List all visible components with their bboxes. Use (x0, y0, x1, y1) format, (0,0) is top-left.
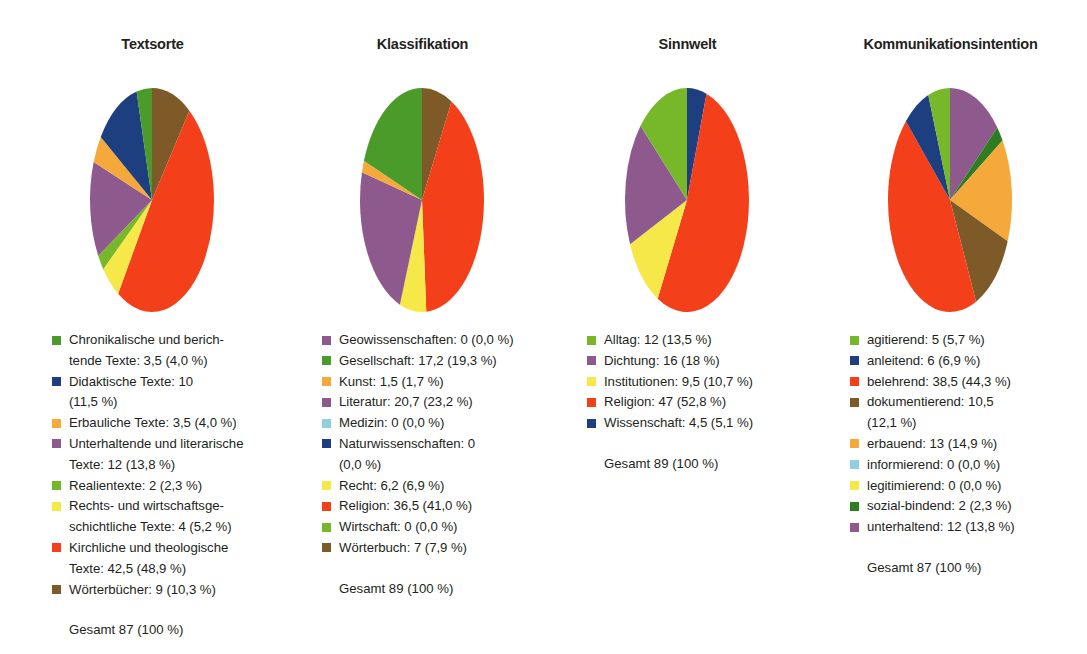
pie-chart-kommunikationsintention (828, 88, 1073, 312)
legend-item[interactable]: Recht: 6,2 (6,9 %) (322, 476, 557, 497)
legend-swatch-icon (587, 356, 596, 365)
legend-swatch-icon (322, 523, 331, 532)
legend-swatch-icon (850, 523, 859, 532)
legend-item-label: Chronikalische und berich-tende Texte: 3… (69, 330, 224, 372)
legend-item[interactable]: informierend: 0 (0,0 %) (850, 455, 1085, 476)
legend-swatch-icon (322, 336, 331, 345)
legend-item[interactable]: sozial-bindend: 2 (2,3 %) (850, 496, 1085, 517)
legend-item-label: Wörterbuch: 7 (7,9 %) (339, 538, 467, 559)
legend-item-label: belehrend: 38,5 (44,3 %) (867, 372, 1011, 393)
legend-swatch-icon (52, 543, 61, 552)
legend-item[interactable]: dokumentierend: 10,5(12,1 %) (850, 392, 1085, 434)
legend-item[interactable]: Rechts- und wirtschaftsge-schichtliche T… (52, 496, 287, 538)
legend-item[interactable]: Wörterbuch: 7 (7,9 %) (322, 538, 557, 559)
pie-chart-klassifikation (300, 88, 545, 312)
legend-swatch-icon (322, 481, 331, 490)
legend-item-label: Wirtschaft: 0 (0,0 %) (339, 517, 457, 538)
legend-swatch-icon (850, 356, 859, 365)
legend-item[interactable]: Erbauliche Texte: 3,5 (4,0 %) (52, 413, 287, 434)
legend-swatch-icon (322, 377, 331, 386)
legend-swatch-icon (322, 398, 331, 407)
legend-item-label: sozial-bindend: 2 (2,3 %) (867, 496, 1012, 517)
legend-item-label: Gesellschaft: 17,2 (19,3 %) (339, 351, 497, 372)
pie-chart-sinnwelt (565, 88, 810, 312)
pie-svg (30, 88, 275, 314)
legend-item[interactable]: Chronikalische und berich-tende Texte: 3… (52, 330, 287, 372)
chart-panel-sinnwelt: Sinnwelt Alltag: 12 (13,5 %)Dichtung: 16… (565, 0, 830, 654)
legend-swatch-icon (587, 377, 596, 386)
legend-swatch-icon (850, 336, 859, 345)
legend-total: Gesamt 87 (100 %) (850, 558, 1085, 579)
legend-item-label: Realientexte: 2 (2,3 %) (69, 476, 202, 497)
legend-item-label: Medizin: 0 (0,0 %) (339, 413, 444, 434)
legend-swatch-icon (52, 377, 61, 386)
legend-item[interactable]: agitierend: 5 (5,7 %) (850, 330, 1085, 351)
legend-item-label: Wörterbücher: 9 (10,3 %) (69, 580, 216, 601)
legend-item-label: Dichtung: 16 (18 %) (604, 351, 720, 372)
legend-sinnwelt: Alltag: 12 (13,5 %)Dichtung: 16 (18 %)In… (587, 330, 822, 475)
legend-items: Chronikalische und berich-tende Texte: 3… (52, 330, 287, 600)
legend-swatch-icon (850, 460, 859, 469)
legend-swatch-icon (587, 336, 596, 345)
legend-item-label: Kirchliche und theologischeTexte: 42,5 (… (69, 538, 228, 580)
legend-item[interactable]: Literatur: 20,7 (23,2 %) (322, 392, 557, 413)
legend-item[interactable]: Religion: 36,5 (41,0 %) (322, 496, 557, 517)
legend-item-label: Didaktische Texte: 10(11,5 %) (69, 372, 193, 414)
legend-item[interactable]: Didaktische Texte: 10(11,5 %) (52, 372, 287, 414)
legend-item[interactable]: Wörterbücher: 9 (10,3 %) (52, 580, 287, 601)
legend-item[interactable]: Wirtschaft: 0 (0,0 %) (322, 517, 557, 538)
legend-item-label: Religion: 47 (52,8 %) (604, 392, 726, 413)
legend-item-label: Recht: 6,2 (6,9 %) (339, 476, 444, 497)
legend-item[interactable]: Kirchliche und theologischeTexte: 42,5 (… (52, 538, 287, 580)
legend-total: Gesamt 87 (100 %) (52, 620, 287, 641)
legend-swatch-icon (850, 439, 859, 448)
legend-swatch-icon (322, 502, 331, 511)
legend-item[interactable]: anleitend: 6 (6,9 %) (850, 351, 1085, 372)
legend-item[interactable]: Geowissenschaften: 0 (0,0 %) (322, 330, 557, 351)
legend-items: Geowissenschaften: 0 (0,0 %)Gesellschaft… (322, 330, 557, 559)
pie-chart-textsorte (30, 88, 275, 312)
legend-item[interactable]: Realientexte: 2 (2,3 %) (52, 476, 287, 497)
legend-item-label: unterhaltend: 12 (13,8 %) (867, 517, 1015, 538)
pie-svg (300, 88, 545, 314)
legend-item[interactable]: legitimierend: 0 (0,0 %) (850, 476, 1085, 497)
legend-item[interactable]: Gesellschaft: 17,2 (19,3 %) (322, 351, 557, 372)
legend-item-label: Alltag: 12 (13,5 %) (604, 330, 712, 351)
legend-item[interactable]: erbauend: 13 (14,9 %) (850, 434, 1085, 455)
legend-item[interactable]: Dichtung: 16 (18 %) (587, 351, 822, 372)
legend-items: agitierend: 5 (5,7 %)anleitend: 6 (6,9 %… (850, 330, 1085, 538)
legend-item-label: Literatur: 20,7 (23,2 %) (339, 392, 473, 413)
legend-swatch-icon (850, 377, 859, 386)
legend-item-label: Institutionen: 9,5 (10,7 %) (604, 372, 753, 393)
legend-swatch-icon (52, 585, 61, 594)
legend-total: Gesamt 89 (100 %) (587, 454, 822, 475)
legend-item-label: Religion: 36,5 (41,0 %) (339, 496, 472, 517)
chart-panel-textsorte: Textsorte Chronikalische und berich-tend… (30, 0, 295, 654)
legend-item-label: Unterhaltende und literarischeTexte: 12 … (69, 434, 243, 476)
legend-item-label: Wissenschaft: 4,5 (5,1 %) (604, 413, 753, 434)
legend-item[interactable]: Wissenschaft: 4,5 (5,1 %) (587, 413, 822, 434)
legend-swatch-icon (850, 502, 859, 511)
legend-item-label: dokumentierend: 10,5(12,1 %) (867, 392, 994, 434)
legend-item[interactable]: Medizin: 0 (0,0 %) (322, 413, 557, 434)
legend-total: Gesamt 89 (100 %) (322, 579, 557, 600)
legend-kommunikationsintention: agitierend: 5 (5,7 %)anleitend: 6 (6,9 %… (850, 330, 1085, 579)
legend-item[interactable]: belehrend: 38,5 (44,3 %) (850, 372, 1085, 393)
legend-item[interactable]: Religion: 47 (52,8 %) (587, 392, 822, 413)
legend-item[interactable]: Alltag: 12 (13,5 %) (587, 330, 822, 351)
legend-textsorte: Chronikalische und berich-tende Texte: 3… (52, 330, 287, 641)
legend-item[interactable]: Institutionen: 9,5 (10,7 %) (587, 372, 822, 393)
page-title: Klassifikation (300, 36, 545, 52)
legend-swatch-icon (52, 336, 61, 345)
legend-item-label: erbauend: 13 (14,9 %) (867, 434, 997, 455)
pie-svg (828, 88, 1073, 314)
legend-item-label: Geowissenschaften: 0 (0,0 %) (339, 330, 514, 351)
legend-item[interactable]: unterhaltend: 12 (13,8 %) (850, 517, 1085, 538)
legend-swatch-icon (322, 419, 331, 428)
legend-item[interactable]: Unterhaltende und literarischeTexte: 12 … (52, 434, 287, 476)
legend-swatch-icon (322, 356, 331, 365)
chart-panel-kommunikationsintention: Kommunikationsintention agitierend: 5 (5… (828, 0, 1087, 654)
legend-item[interactable]: Naturwissenschaften: 0(0,0 %) (322, 434, 557, 476)
legend-item[interactable]: Kunst: 1,5 (1,7 %) (322, 372, 557, 393)
legend-swatch-icon (322, 439, 331, 448)
